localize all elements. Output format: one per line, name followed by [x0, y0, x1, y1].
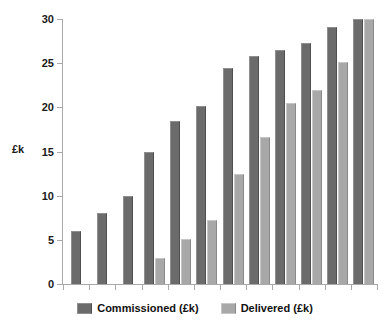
dark-gray-swatch: [77, 303, 92, 314]
x-axis-tick: [194, 285, 195, 290]
x-axis-tick: [89, 285, 90, 290]
x-axis-tick: [63, 285, 64, 290]
bar: [223, 68, 233, 284]
legend-item-label: Commissioned (£k): [97, 303, 198, 314]
x-axis-tick: [220, 285, 221, 290]
bar: [286, 103, 296, 284]
y-axis-tick: [57, 240, 62, 241]
bar: [71, 231, 81, 284]
x-axis-tick: [272, 285, 273, 290]
bar: [312, 90, 322, 284]
x-axis-tick: [142, 285, 143, 290]
x-axis-tick: [299, 285, 300, 290]
y-axis-tick-label: 20: [14, 102, 54, 113]
x-axis-tick: [246, 285, 247, 290]
y-axis-tick: [57, 107, 62, 108]
y-axis-tick-label: 5: [14, 235, 54, 246]
bar: [275, 50, 285, 284]
bar: [234, 174, 244, 284]
x-axis-tick: [168, 285, 169, 290]
bar: [155, 258, 165, 285]
bar: [249, 56, 259, 284]
y-axis-tick: [57, 284, 62, 285]
y-axis-tick: [57, 196, 62, 197]
bar: [338, 62, 348, 284]
y-axis-tick-label: 30: [14, 14, 54, 25]
bar-chart: £k 051015202530 Commissioned (£k)Deliver…: [0, 0, 390, 330]
bar: [260, 137, 270, 284]
x-axis-tick: [351, 285, 352, 290]
bar: [364, 19, 374, 284]
y-axis-tick-label: 15: [14, 147, 54, 158]
bar: [207, 220, 217, 284]
x-axis-tick: [377, 285, 378, 290]
y-axis-tick: [57, 63, 62, 64]
x-axis-tick: [325, 285, 326, 290]
legend-item[interactable]: Commissioned (£k): [77, 303, 198, 314]
y-axis-tick-label: 0: [14, 279, 54, 290]
bar: [301, 43, 311, 284]
bar: [144, 152, 154, 285]
y-axis-tick-label: 10: [14, 191, 54, 202]
legend-item-label: Delivered (£k): [241, 303, 313, 314]
x-axis-tick: [115, 285, 116, 290]
bar: [196, 106, 206, 284]
bar: [181, 239, 191, 284]
bar: [97, 213, 107, 284]
y-axis-tick: [57, 19, 62, 20]
bar: [123, 196, 133, 284]
bar: [170, 121, 180, 284]
y-axis-tick-label: 25: [14, 58, 54, 69]
bar: [327, 27, 337, 284]
light-gray-swatch: [221, 303, 236, 314]
legend-item[interactable]: Delivered (£k): [221, 303, 313, 314]
plot-area: [63, 19, 377, 284]
y-axis-tick: [57, 152, 62, 153]
bar: [353, 19, 363, 284]
chart-legend: Commissioned (£k)Delivered (£k): [0, 303, 390, 314]
